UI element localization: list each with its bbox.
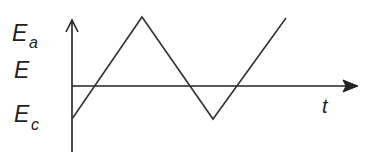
label-ec-main: E	[14, 101, 30, 127]
label-e: E	[14, 57, 30, 83]
label-ec-sub: c	[31, 116, 39, 133]
label-ea-main: E	[12, 20, 28, 46]
label-ea-sub: a	[29, 34, 38, 51]
label-t: t	[322, 95, 329, 117]
potential-sweep-diagram: E a E E c t	[0, 0, 375, 158]
triangular-waveform	[72, 17, 286, 119]
